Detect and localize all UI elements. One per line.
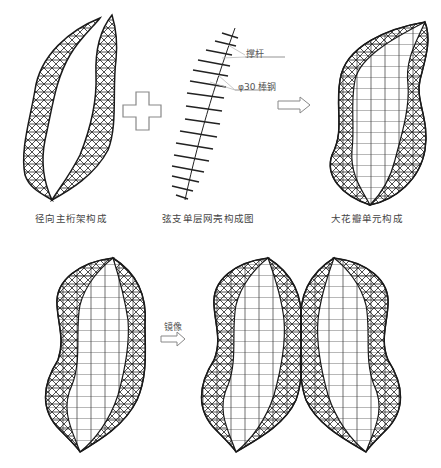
petal-unit-bottom-figure [46, 258, 146, 452]
petal-unit-figure [330, 22, 428, 205]
string-shell-figure [172, 28, 285, 200]
label-strut: 撑杆 [246, 47, 264, 60]
label-steel-rod: φ30 棒钢 [238, 80, 276, 93]
arrow-right-icon [278, 97, 310, 113]
caption-petal-unit: 大花瓣单元构成 [331, 211, 403, 225]
radial-truss-figure [24, 15, 117, 200]
diagram-canvas [0, 0, 441, 468]
mirror-arrow-icon [161, 332, 185, 346]
caption-string-shell: 弦支单层网壳构成图 [162, 211, 255, 225]
mirrored-petal-pair-figure [202, 258, 401, 452]
plus-icon [123, 92, 161, 130]
label-mirror: 镜像 [164, 320, 182, 333]
caption-radial-truss: 径向主桁架构成 [35, 211, 107, 225]
